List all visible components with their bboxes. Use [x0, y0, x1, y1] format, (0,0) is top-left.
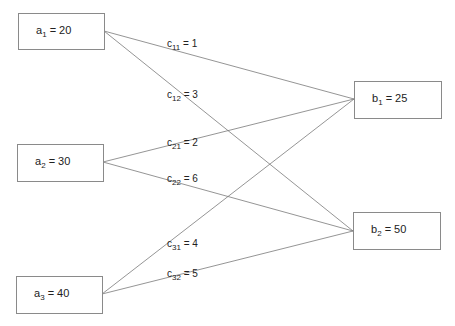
node-label: a3 = 40	[34, 287, 69, 299]
node-label: b1 = 25	[372, 92, 407, 104]
edge-label-c21: c21 = 2	[167, 137, 198, 148]
edge-label-c31: c31 = 4	[167, 238, 198, 249]
source-node-a2: a2 = 30	[17, 144, 104, 182]
destination-node-b2: b2 = 50	[353, 212, 441, 250]
edge-label-c12: c12 = 3	[167, 89, 198, 100]
destination-node-b1: b1 = 25	[354, 81, 442, 119]
node-label: a1 = 20	[36, 24, 71, 36]
edge-label-c22: c22 = 6	[167, 173, 198, 184]
edge-label-c11: c11 = 1	[167, 38, 197, 49]
edge-a1-b1	[104, 31, 354, 99]
node-label: a2 = 30	[35, 155, 70, 167]
edge-label-c32: c32 = 5	[167, 268, 198, 279]
edge-a3-b2	[102, 231, 353, 294]
edge-a1-b2	[104, 31, 353, 231]
source-node-a1: a1 = 20	[18, 13, 105, 50]
node-label: b2 = 50	[371, 223, 406, 235]
transport-diagram: a1 = 20 a2 = 30 a3 = 40 b1 = 25 b2 = 50 …	[0, 0, 455, 326]
edge-a2-b1	[103, 99, 354, 162]
source-node-a3: a3 = 40	[16, 276, 103, 314]
edge-a3-b1	[102, 99, 354, 294]
